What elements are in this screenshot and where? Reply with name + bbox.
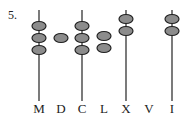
label-i: I [164,101,180,117]
label-x: X [118,101,134,117]
label-m: M [31,101,47,117]
bead [32,22,46,31]
column-d [54,34,68,43]
bead [119,15,133,24]
bead [97,32,111,41]
bead [32,46,46,55]
label-l: L [96,101,112,117]
label-v: V [141,101,157,117]
bead [165,27,179,36]
column-c [75,10,89,101]
label-d: D [53,101,69,117]
bead [32,34,46,43]
bead [54,34,68,43]
bead [165,15,179,24]
bead [119,27,133,36]
bead [75,34,89,43]
column-m [32,10,46,101]
bead [97,44,111,53]
column-i [165,10,179,101]
bead [75,22,89,31]
label-c: C [74,101,90,117]
bead [75,46,89,55]
column-x [119,10,133,101]
column-l [97,32,111,53]
